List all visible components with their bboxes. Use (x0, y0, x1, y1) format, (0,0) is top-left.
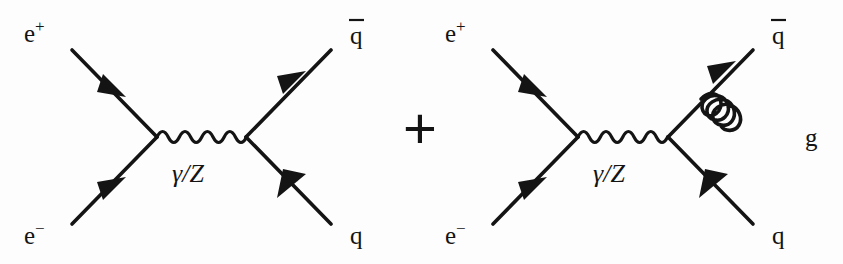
gluon-spiral (701, 94, 741, 131)
diagram-tree-level: e+ e− q q γ/Z (24, 17, 364, 249)
boson-propagator-wave (157, 132, 247, 143)
plus-operator: + (403, 95, 437, 160)
label-propagator-gamma-z: γ/Z (172, 159, 204, 188)
fermion-line-antiquark (246, 50, 331, 137)
label-propagator-gamma-z-2: γ/Z (593, 159, 625, 188)
label-electron: e− (24, 219, 45, 249)
label-positron: e+ (24, 17, 45, 47)
label-antiquark-2: q (771, 20, 786, 49)
arrow-head-positron-2 (518, 74, 547, 97)
arrow-head-positron (97, 74, 126, 97)
arrow-head-electron-2 (518, 177, 547, 200)
diagram-gluon-emission: e+ e− q q g γ/Z (445, 17, 818, 249)
label-electron-2: e− (445, 219, 466, 249)
feynman-diagram-canvas: e+ e− q q γ/Z + (0, 0, 843, 264)
svg-text:q: q (772, 22, 785, 49)
boson-propagator-wave-2 (578, 132, 668, 143)
label-antiquark: q (349, 20, 364, 49)
label-positron-2: e+ (445, 17, 466, 47)
arrow-head-electron (97, 177, 126, 200)
label-gluon: g (805, 124, 818, 151)
label-quark: q (350, 222, 363, 249)
label-quark-2: q (772, 222, 785, 249)
feynman-diagram-figure: e+ e− q q γ/Z + (0, 0, 843, 264)
svg-text:q: q (350, 22, 363, 49)
